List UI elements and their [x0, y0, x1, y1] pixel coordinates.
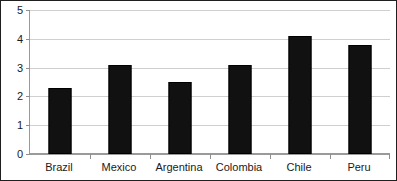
bar-slot — [330, 10, 390, 154]
bar[interactable] — [49, 88, 72, 154]
y-tick-label: 1 — [17, 120, 23, 131]
y-tick-label: 2 — [17, 91, 23, 102]
bar[interactable] — [169, 82, 192, 154]
y-tick-label: 5 — [17, 5, 23, 16]
x-axis-label-argentina: Argentina — [149, 160, 209, 174]
bar-slot — [210, 10, 270, 154]
x-axis-label-mexico: Mexico — [89, 160, 149, 174]
bar[interactable] — [109, 65, 132, 154]
y-tick-mark — [26, 154, 30, 155]
bar-slot — [30, 10, 90, 154]
bar[interactable] — [349, 45, 372, 154]
x-axis-labels: BrazilMexicoArgentinaColombiaChilePeru — [29, 160, 390, 178]
plot-area: 012345 — [29, 10, 390, 155]
x-tick-mark — [210, 154, 211, 159]
y-tick-label: 3 — [17, 63, 23, 74]
x-axis-label-colombia: Colombia — [209, 160, 269, 174]
bar-slot — [150, 10, 210, 154]
bar-slot — [270, 10, 330, 154]
x-tick-mark — [270, 154, 271, 159]
y-tick-label: 0 — [17, 149, 23, 160]
bar-slot — [90, 10, 150, 154]
x-axis-label-brazil: Brazil — [29, 160, 89, 174]
x-tick-mark — [150, 154, 151, 159]
x-axis-label-peru: Peru — [329, 160, 389, 174]
x-tick-mark — [330, 154, 331, 159]
x-tick-mark — [90, 154, 91, 159]
x-tick-mark — [389, 154, 390, 159]
bar-chart-figure: 012345 BrazilMexicoArgentinaColombiaChil… — [0, 0, 397, 181]
y-tick-label: 4 — [17, 34, 23, 45]
bar[interactable] — [229, 65, 252, 154]
bar[interactable] — [289, 36, 312, 154]
bars — [30, 10, 390, 154]
x-axis-label-chile: Chile — [269, 160, 329, 174]
chart-summary: Bar chart of six values by country: Braz… — [0, 16, 1, 17]
